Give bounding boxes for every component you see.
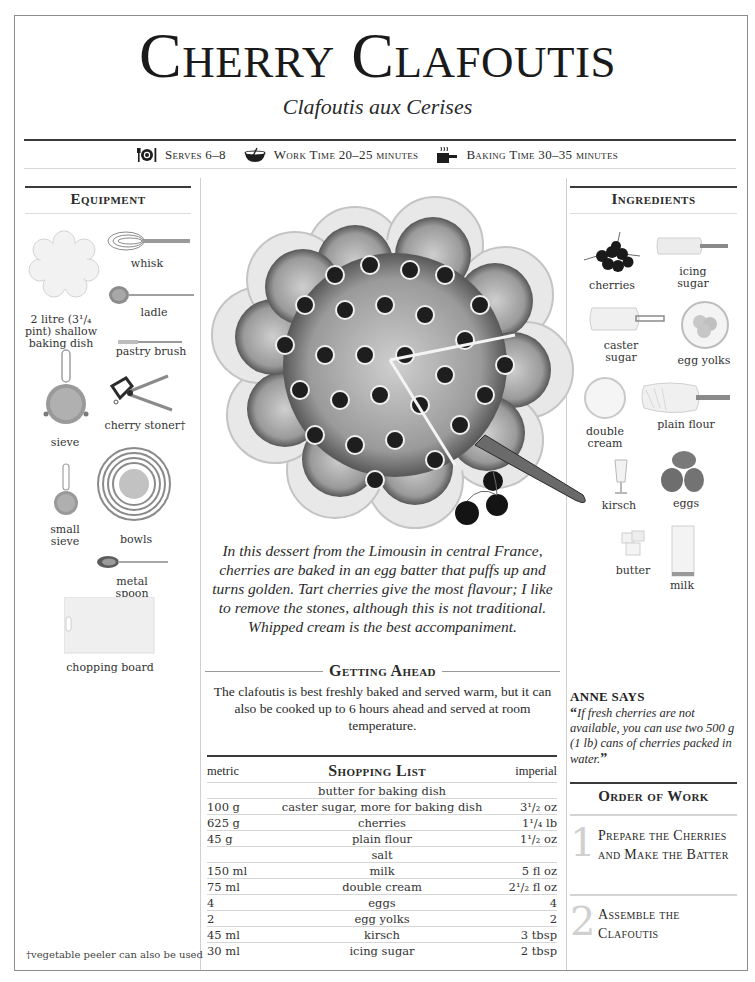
shopping-list-table: butter for baking dish 100 gcaster sugar… xyxy=(207,782,557,958)
shopping-list-heading: Shopping List xyxy=(328,762,426,780)
table-row: 30 mlicing sugar2 tbsp xyxy=(207,942,557,958)
anne-says-text: If fresh cherries are not available, you… xyxy=(570,706,734,766)
order-of-work-divider-2 xyxy=(570,894,737,896)
recipe-subtitle: Clafoutis aux Cerises xyxy=(0,94,755,120)
step-label: Prepare the Cherries and Make the Batter xyxy=(598,822,740,864)
equipment-item-bowls: bowls xyxy=(114,534,158,546)
table-row: 45 mlkirsch3 tbsp xyxy=(207,926,557,942)
table-row: 4eggs4 xyxy=(207,894,557,910)
ingredient-item-plain-flour: plain flour xyxy=(654,419,718,431)
sieve-image xyxy=(42,348,92,432)
ingredient-item-kirsch: kirsch xyxy=(598,500,640,512)
ingredient-item-icing-sugar: icing sugar xyxy=(670,266,716,290)
icing-sugar-image xyxy=(656,234,730,262)
order-of-work-divider-1 xyxy=(570,814,737,816)
ingredients-heading: Ingredients xyxy=(570,191,737,208)
ingredients-head-rule xyxy=(570,186,737,188)
serves-label: Serves 6–8 xyxy=(165,147,226,163)
table-row: salt xyxy=(207,846,557,862)
header-thin-rule xyxy=(24,168,736,169)
left-column-divider xyxy=(200,178,201,970)
equipment-item-baking-dish: 2 litre (3¹/₄ pint) shallow baking dish xyxy=(20,314,102,350)
milk-image xyxy=(670,524,696,582)
meta-baking-time: Baking Time 30–35 minutes xyxy=(436,146,618,164)
table-row: 2egg yolks2 xyxy=(207,910,557,926)
ingredient-item-milk: milk xyxy=(662,580,702,592)
clafoutis-photo xyxy=(205,195,595,535)
whisk-image xyxy=(106,230,192,256)
order-of-work-rule xyxy=(570,782,737,784)
equipment-item-sieve: sieve xyxy=(40,437,90,449)
work-time-label: Work Time 20–25 minutes xyxy=(274,147,419,163)
equipment-item-cherry-stoner: cherry stoner† xyxy=(102,420,188,432)
metric-column-header: metric xyxy=(207,764,239,779)
ingredient-item-eggs: eggs xyxy=(666,498,706,510)
order-step-1: 1 Prepare the Cherries and Make the Batt… xyxy=(570,822,740,864)
getting-ahead-rule-left xyxy=(205,671,323,672)
table-row: 150 mlmilk5 fl oz xyxy=(207,862,557,878)
place-setting-icon xyxy=(137,147,157,163)
open-quote-mark: “ xyxy=(570,705,577,720)
bowls-image xyxy=(96,446,172,526)
baking-dish-image xyxy=(28,230,100,302)
shopping-list-header: metric Shopping List imperial xyxy=(207,760,557,782)
equipment-footnote: †vegetable peeler can also be used xyxy=(26,949,203,960)
header-rule xyxy=(24,139,736,141)
ingredient-item-egg-yolks: egg yolks xyxy=(672,355,736,367)
anne-says-quote: “If fresh cherries are not available, yo… xyxy=(570,705,740,767)
step-number: 1 xyxy=(570,822,592,862)
shopping-list-rule xyxy=(207,755,557,757)
order-step-2: 2 Assemble the Clafoutis xyxy=(570,901,740,943)
meta-work-time: Work Time 20–25 minutes xyxy=(244,147,419,163)
recipe-meta-bar: Serves 6–8 Work Time 20–25 minutes Bakin… xyxy=(0,145,755,165)
eggs-image xyxy=(660,450,706,498)
close-quote-mark: ” xyxy=(600,751,607,766)
table-row: butter for baking dish xyxy=(207,782,557,798)
getting-ahead-heading: Getting Ahead xyxy=(329,662,436,680)
step-label: Assemble the Clafoutis xyxy=(598,901,740,943)
baking-time-label: Baking Time 30–35 minutes xyxy=(466,147,618,163)
caster-sugar-image xyxy=(588,304,668,338)
cherry-stoner-image xyxy=(106,372,174,420)
getting-ahead-heading-row: Getting Ahead xyxy=(205,662,560,680)
chopping-board-image xyxy=(64,597,156,659)
ingredients-head-thin-rule xyxy=(570,213,737,214)
equipment-item-chopping-board: chopping board xyxy=(62,662,158,674)
equipment-item-ladle: ladle xyxy=(126,307,182,319)
table-row: 75 mldouble cream2¹/₂ fl oz xyxy=(207,878,557,894)
small-sieve-image xyxy=(52,462,82,526)
table-row: 45 gplain flour1¹/₂ oz xyxy=(207,830,557,846)
step-number: 2 xyxy=(570,901,592,941)
anne-says-heading: ANNE SAYS xyxy=(570,689,645,705)
ingredient-item-butter: butter xyxy=(610,565,656,577)
equipment-head-rule xyxy=(25,186,191,188)
kirsch-image xyxy=(612,458,630,502)
recipe-title: Cherry Clafoutis xyxy=(0,24,755,88)
mixing-bowl-icon xyxy=(244,147,266,163)
meta-serves: Serves 6–8 xyxy=(137,147,226,163)
equipment-head-thin-rule xyxy=(25,213,191,214)
equipment-item-small-sieve: small sieve xyxy=(44,524,86,548)
getting-ahead-text: The clafoutis is best freshly baked and … xyxy=(205,683,560,734)
ingredient-item-caster-sugar: caster sugar xyxy=(596,340,646,364)
butter-image xyxy=(616,527,650,563)
metal-spoon-image xyxy=(96,554,170,574)
getting-ahead-rule-right xyxy=(442,671,560,672)
equipment-item-pastry-brush: pastry brush xyxy=(114,346,188,358)
baking-pan-icon xyxy=(436,146,458,164)
egg-yolks-image xyxy=(680,300,730,354)
table-row: 100 gcaster sugar, more for baking dish3… xyxy=(207,798,557,814)
equipment-item-whisk: whisk xyxy=(114,258,180,270)
imperial-column-header: imperial xyxy=(515,764,557,779)
plain-flour-image xyxy=(640,380,732,420)
table-row: 625 gcherries1¹/₄ lb xyxy=(207,814,557,830)
recipe-intro: In this dessert from the Limousin in cen… xyxy=(205,541,560,636)
order-of-work-heading: Order of Work xyxy=(570,788,737,805)
equipment-heading: Equipment xyxy=(25,191,191,208)
